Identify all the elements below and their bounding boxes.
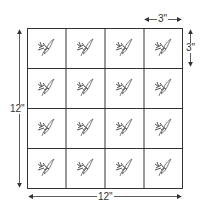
cell-width-label: 3" <box>157 14 168 24</box>
grid-lines <box>28 29 183 189</box>
total-width-label: 12" <box>97 192 114 202</box>
total-height-label: 12" <box>9 104 26 114</box>
grid-diagram <box>0 0 200 212</box>
cell-height-label: 3" <box>185 43 196 53</box>
